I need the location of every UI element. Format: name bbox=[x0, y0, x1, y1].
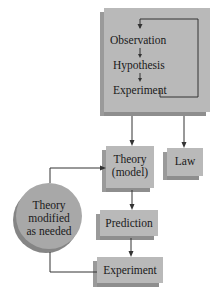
step-hypothesis: Hypothesis bbox=[113, 59, 173, 72]
circle-label-line3: as needed bbox=[16, 225, 82, 238]
theory-label-line1: Theory bbox=[106, 153, 154, 166]
circle-label-line2: modified bbox=[16, 212, 82, 225]
experiment-label: Experiment bbox=[97, 264, 163, 277]
prediction-label: Prediction bbox=[100, 217, 158, 230]
step-observation: Observation bbox=[110, 34, 170, 47]
circle-label-line1: Theory bbox=[16, 199, 82, 212]
theory-label-line2: (model) bbox=[106, 166, 154, 179]
step-experiment: Experiment bbox=[113, 84, 173, 97]
loop-arrowhead bbox=[138, 24, 143, 29]
connector-lines bbox=[0, 0, 218, 299]
law-label: Law bbox=[167, 155, 203, 168]
